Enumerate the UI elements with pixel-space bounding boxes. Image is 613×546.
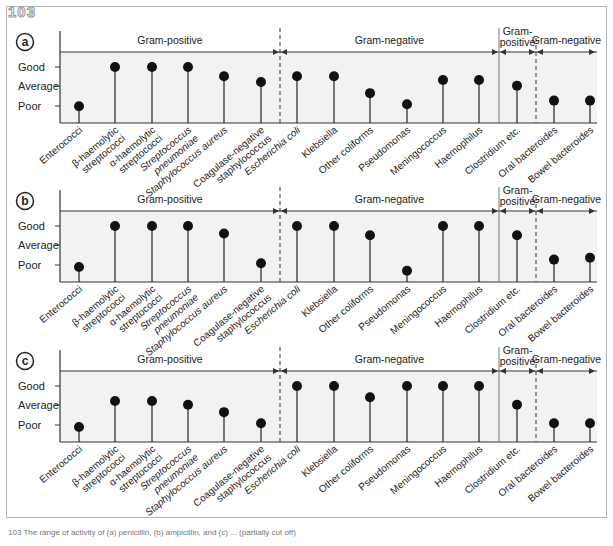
data-point <box>402 99 412 109</box>
data-point <box>329 221 339 231</box>
data-point <box>219 407 229 417</box>
figure-caption: 103 The range of activity of (a) penicil… <box>8 528 296 537</box>
y-tick-label: Average <box>18 80 59 92</box>
data-point <box>110 62 120 72</box>
data-point <box>256 418 266 428</box>
data-point <box>512 400 522 410</box>
data-point <box>256 77 266 87</box>
data-point <box>474 75 484 85</box>
panel-letter: b <box>21 194 28 208</box>
data-point <box>74 101 84 111</box>
panel-letter: a <box>22 35 29 49</box>
data-point <box>147 221 157 231</box>
data-point <box>292 71 302 81</box>
data-point <box>512 81 522 91</box>
group-label: Gram-negative <box>532 34 602 46</box>
data-point <box>549 418 559 428</box>
panel-c: cGram-positiveGram-negativeGram-positive… <box>17 344 602 518</box>
data-point <box>365 392 375 402</box>
panel-b: bGram-positiveGram-negativeGram-positive… <box>17 184 602 358</box>
data-point <box>147 62 157 72</box>
group-label: Gram-negative <box>355 193 425 205</box>
y-tick-label: Poor <box>18 419 42 431</box>
data-point <box>219 71 229 81</box>
group-label: Gram-positive <box>137 193 203 205</box>
data-point <box>183 221 193 231</box>
data-point <box>292 221 302 231</box>
data-point <box>110 221 120 231</box>
y-tick-label: Good <box>18 220 45 232</box>
group-label: Gram-positive <box>137 353 203 365</box>
data-point <box>74 422 84 432</box>
group-label: positive <box>500 195 536 207</box>
group-label: positive <box>500 36 536 48</box>
y-tick-label: Poor <box>18 259 42 271</box>
data-point <box>365 88 375 98</box>
data-point <box>585 96 595 106</box>
group-label: Gram-positive <box>137 34 203 46</box>
y-tick-label: Average <box>18 399 59 411</box>
data-point <box>147 396 157 406</box>
group-label: Gram-negative <box>355 353 425 365</box>
y-tick-label: Poor <box>18 100 42 112</box>
y-tick-label: Average <box>18 239 59 251</box>
data-point <box>256 258 266 268</box>
y-tick-label: Good <box>18 61 45 73</box>
data-point <box>512 230 522 240</box>
data-point <box>438 381 448 391</box>
data-point <box>549 96 559 106</box>
data-point <box>74 262 84 272</box>
data-point <box>365 230 375 240</box>
data-point <box>585 418 595 428</box>
group-label: Gram-negative <box>532 353 602 365</box>
data-point <box>183 62 193 72</box>
panel-letter: c <box>22 354 29 368</box>
data-point <box>474 381 484 391</box>
group-label: Gram-negative <box>532 193 602 205</box>
x-category-label: Bowel bacteroides <box>526 124 596 185</box>
data-point <box>402 266 412 276</box>
data-point <box>183 400 193 410</box>
data-point <box>329 71 339 81</box>
chart-canvas: aGram-positiveGram-negativeGram-positive… <box>0 0 613 546</box>
data-point <box>402 381 412 391</box>
x-category-label: Bowel bacteroides <box>526 283 596 344</box>
x-category-label: Bowel bacteroides <box>526 443 596 504</box>
data-point <box>438 221 448 231</box>
data-point <box>292 381 302 391</box>
data-point <box>438 75 448 85</box>
data-point <box>549 255 559 265</box>
data-point <box>585 253 595 263</box>
group-label: Gram-negative <box>355 34 425 46</box>
data-point <box>110 396 120 406</box>
panel-a: aGram-positiveGram-negativeGram-positive… <box>17 25 602 199</box>
data-point <box>474 221 484 231</box>
group-label: positive <box>500 355 536 367</box>
data-point <box>329 381 339 391</box>
y-tick-label: Good <box>18 380 45 392</box>
data-point <box>219 228 229 238</box>
